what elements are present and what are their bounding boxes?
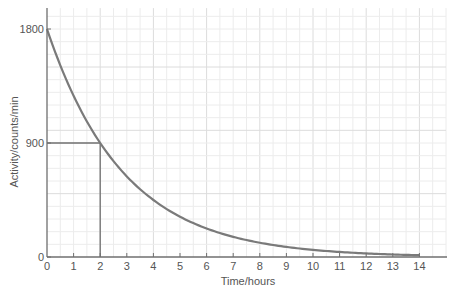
x-tick-label: 2 (97, 260, 103, 272)
y-axis-label: Activity/counts/min (8, 96, 20, 187)
x-tick-label: 3 (124, 260, 130, 272)
x-tick-label: 11 (334, 260, 345, 272)
activity-decay-chart: 01234567891011121314 09001800 Time/hours… (0, 0, 458, 291)
x-tick-label: 9 (283, 260, 289, 272)
y-tick-label: 1800 (20, 23, 44, 35)
grid (47, 8, 446, 257)
x-axis-ticks: 01234567891011121314 (44, 253, 426, 272)
y-tick-label: 0 (38, 251, 44, 263)
x-tick-label: 14 (413, 260, 425, 272)
x-tick-label: 10 (307, 260, 319, 272)
x-tick-label: 12 (360, 260, 372, 272)
x-tick-label: 7 (230, 260, 236, 272)
x-tick-label: 5 (177, 260, 183, 272)
x-tick-label: 8 (257, 260, 263, 272)
x-tick-label: 4 (150, 260, 156, 272)
x-axis-label: Time/hours (221, 275, 276, 287)
x-tick-label: 0 (44, 260, 50, 272)
x-tick-label: 1 (71, 260, 77, 272)
y-tick-label: 900 (26, 137, 44, 149)
x-tick-label: 6 (204, 260, 210, 272)
x-tick-label: 13 (387, 260, 399, 272)
y-axis-ticks: 09001800 (20, 23, 51, 263)
